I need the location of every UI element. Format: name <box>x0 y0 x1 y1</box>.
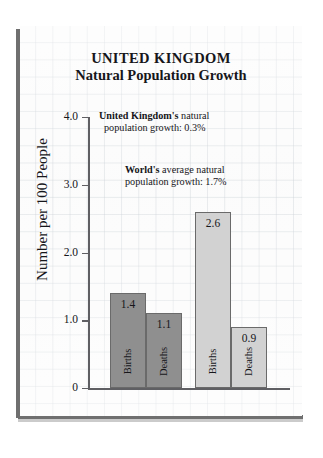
y-tick-3-0: 3.0 <box>82 185 89 186</box>
chart-card: UNITED KINGDOM Natural Population Growth… <box>20 26 302 416</box>
chart-screenshot: UNITED KINGDOM Natural Population Growth… <box>0 0 323 458</box>
y-tick-label: 3.0 <box>64 178 78 190</box>
card-shadow-bottom-soft <box>18 419 303 422</box>
y-tick-0: 0 <box>82 388 89 389</box>
bar-category-label: Births <box>111 339 145 385</box>
bar-value-label: 2.6 <box>196 217 230 229</box>
y-tick-label: 4.0 <box>64 110 78 122</box>
y-tick-4-0: 4.0 <box>82 117 89 118</box>
y-tick-label: 2.0 <box>64 246 78 258</box>
bar-category-label: Births <box>196 339 230 385</box>
y-tick-label: 0 <box>72 381 78 393</box>
y-tick-2-0: 2.0 <box>82 253 89 254</box>
bar-united-kingdom-deaths: 1.1Deaths <box>146 313 182 388</box>
y-axis-title: Number per 100 People <box>34 130 51 290</box>
bar-value-label: 1.4 <box>111 298 145 310</box>
plot-area: 4.03.02.01.00 Number per 100 People 1.4B… <box>20 26 302 416</box>
x-axis-line <box>88 388 290 390</box>
bar-united-kingdom-births: 1.4Births <box>110 293 146 388</box>
bar-world-deaths: 0.9Deaths <box>231 327 267 388</box>
bar-category-label: Deaths <box>232 339 266 385</box>
bar-category-label: Deaths <box>147 339 181 385</box>
y-tick-1-0: 1.0 <box>82 320 89 321</box>
bar-world-births: 2.6Births <box>195 212 231 388</box>
y-tick-label: 1.0 <box>64 313 78 325</box>
bar-value-label: 1.1 <box>147 318 181 330</box>
